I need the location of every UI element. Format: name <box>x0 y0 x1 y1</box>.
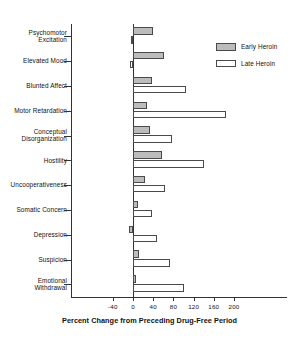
bar-early-heroin <box>129 226 133 233</box>
category-label-elevated-mood: Elevated Mood <box>0 57 67 65</box>
bar-early-heroin <box>133 176 145 183</box>
chart-row: Depression <box>0 222 299 247</box>
bar-late-heroin <box>131 36 133 43</box>
category-label-line: Hostility <box>0 157 67 165</box>
category-label-line: Withdrawal <box>0 284 67 292</box>
category-tick <box>64 111 72 112</box>
category-label-psychomotor-excitation: PsychomotorExcitation <box>0 29 67 44</box>
bar-late-heroin <box>133 210 152 217</box>
legend-item-late: Late Heroin <box>216 60 277 68</box>
bar-early-heroin <box>133 151 162 158</box>
category-tick <box>64 260 72 261</box>
category-label-line: Disorganization <box>0 135 67 143</box>
category-label-blunted-affect: Blunted Affect <box>0 82 67 90</box>
bar-late-heroin <box>133 284 184 291</box>
x-axis-tick <box>133 297 134 301</box>
bar-chart: PsychomotorExcitationElevated MoodBlunte… <box>0 0 299 342</box>
x-axis-tick <box>214 297 215 301</box>
bar-late-heroin <box>133 86 186 93</box>
category-tick <box>64 235 72 236</box>
chart-row: EmotionalWithdrawal <box>0 272 299 297</box>
x-axis-tick <box>173 297 174 301</box>
category-tick <box>64 136 72 137</box>
bar-early-heroin <box>133 275 136 282</box>
x-axis-tick <box>153 297 154 301</box>
bar-early-heroin <box>133 126 150 133</box>
x-axis-tick <box>234 297 235 301</box>
chart-row: Somatic Concern <box>0 198 299 223</box>
category-tick <box>64 185 72 186</box>
category-label-uncooperativeness: Uncooperativeness <box>0 181 67 189</box>
category-tick <box>64 86 72 87</box>
category-label-line: Motor Retardation <box>0 107 67 115</box>
chart-row: Uncooperativeness <box>0 173 299 198</box>
category-label-somatic-concern: Somatic Concern <box>0 206 67 214</box>
bar-late-heroin <box>133 259 170 266</box>
category-label-motor-retardation: Motor Retardation <box>0 107 67 115</box>
x-axis-tick <box>113 297 114 301</box>
category-tick <box>64 284 72 285</box>
category-tick <box>64 36 72 37</box>
bar-late-heroin <box>133 160 204 167</box>
chart-row: Hostility <box>0 148 299 173</box>
category-label-line: Emotional <box>0 277 67 285</box>
bar-late-heroin <box>133 185 165 192</box>
x-axis-tick-label: 200 <box>221 303 247 310</box>
chart-row: Suspicion <box>0 247 299 272</box>
bar-early-heroin <box>133 52 164 59</box>
category-label-conceptual-disorganization: ConceptualDisorganization <box>0 128 67 143</box>
category-label-emotional-withdrawal: EmotionalWithdrawal <box>0 277 67 292</box>
bar-early-heroin <box>133 250 139 257</box>
chart-row: Motor Retardation <box>0 98 299 123</box>
legend-swatch-late-heroin <box>216 60 236 68</box>
category-tick <box>64 61 72 62</box>
x-axis-title: Percent Change from Preceding Drug-Free … <box>0 316 299 325</box>
category-label-suspicion: Suspicion <box>0 256 67 264</box>
category-label-line: Conceptual <box>0 128 67 136</box>
category-tick <box>64 160 72 161</box>
bar-late-heroin <box>130 61 133 68</box>
bar-early-heroin <box>133 27 153 34</box>
category-label-line: Psychomotor <box>0 29 67 37</box>
bar-early-heroin <box>133 77 152 84</box>
chart-row: Blunted Affect <box>0 74 299 99</box>
legend-label-late-heroin: Late Heroin <box>241 60 275 67</box>
value-axis-line <box>71 297 287 298</box>
legend-item-early: Early Heroin <box>216 43 277 51</box>
chart-legend: Early Heroin Late Heroin <box>216 43 277 76</box>
x-axis-tick <box>194 297 195 301</box>
bar-late-heroin <box>133 111 226 118</box>
bar-late-heroin <box>133 235 157 242</box>
category-tick <box>64 210 72 211</box>
category-label-line: Excitation <box>0 36 67 44</box>
category-label-line: Uncooperativeness <box>0 181 67 189</box>
chart-row: ConceptualDisorganization <box>0 123 299 148</box>
category-label-line: Depression <box>0 231 67 239</box>
bar-early-heroin <box>133 102 147 109</box>
legend-label-early-heroin: Early Heroin <box>241 43 277 50</box>
category-label-depression: Depression <box>0 231 67 239</box>
category-label-line: Elevated Mood <box>0 57 67 65</box>
bar-early-heroin <box>133 201 138 208</box>
category-label-hostility: Hostility <box>0 157 67 165</box>
category-label-line: Somatic Concern <box>0 206 67 214</box>
category-label-line: Blunted Affect <box>0 82 67 90</box>
category-label-line: Suspicion <box>0 256 67 264</box>
bar-late-heroin <box>133 135 172 142</box>
legend-swatch-early-heroin <box>216 43 236 51</box>
